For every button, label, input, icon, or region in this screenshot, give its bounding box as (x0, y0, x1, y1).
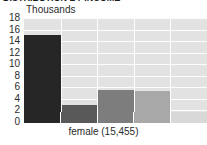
bar (24, 35, 61, 122)
gridline-vertical (61, 18, 62, 122)
y-axis-tick-label: 6 (14, 82, 20, 92)
y-axis-tick-label: 8 (14, 71, 20, 81)
y-axis-tick-label: 18 (9, 13, 20, 23)
y-axis-tick-label: 16 (9, 25, 20, 35)
y-axis-ticks: 181614121086420 (0, 18, 22, 122)
legend-swatch (171, 112, 207, 123)
y-axis-tick-label: 12 (9, 48, 20, 58)
y-axis-tick-label: 4 (14, 94, 20, 104)
chart-screenshot: DISTRIBUTION BY INCOME Thousands 1816141… (0, 0, 207, 145)
y-axis-unit-label: Thousands (26, 4, 75, 15)
legend-swatch (24, 112, 61, 123)
y-axis-tick-label: 10 (9, 59, 20, 69)
legend-swatch (134, 112, 171, 123)
chart-title-clipped: DISTRIBUTION BY INCOME (3, 0, 153, 3)
legend-color-key (24, 112, 207, 123)
legend-swatch (61, 112, 98, 123)
gridline-vertical (134, 18, 135, 122)
y-axis-tick-label: 2 (14, 105, 20, 115)
gridline-vertical (170, 18, 171, 122)
plot-area (24, 18, 207, 122)
legend-swatch (98, 112, 135, 123)
gridline-horizontal (24, 30, 207, 31)
x-axis-label: female (15,455) (0, 126, 207, 137)
gridline-vertical (97, 18, 98, 122)
y-axis-tick-label: 14 (9, 36, 20, 46)
gridline-horizontal (24, 18, 207, 19)
